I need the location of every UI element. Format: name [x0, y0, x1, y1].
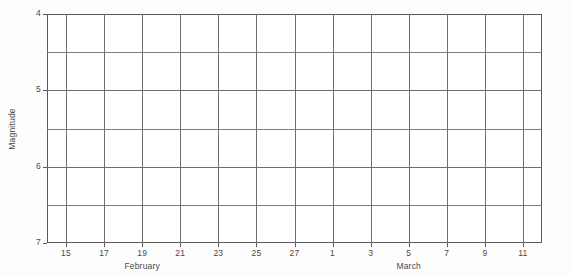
- gridline-v-5: [409, 14, 410, 243]
- x-tick-mark-9: [485, 243, 486, 247]
- x-axis-month-march: March: [369, 261, 449, 271]
- x-tick-label-17: 17: [89, 248, 119, 258]
- x-tick-mark-17: [104, 243, 105, 247]
- x-tick-mark-11: [523, 243, 524, 247]
- x-tick-label-1: 1: [318, 248, 348, 258]
- plot-area: [47, 14, 542, 243]
- y-axis-title: Magnitude: [7, 108, 17, 150]
- x-tick-mark-7: [447, 243, 448, 247]
- gridline-v-3: [371, 14, 372, 243]
- x-tick-label-11: 11: [508, 248, 538, 258]
- gridline-v-9: [485, 14, 486, 243]
- x-tick-label-27: 27: [280, 248, 310, 258]
- y-tick-label-6: 6: [28, 161, 41, 171]
- x-tick-label-25: 25: [241, 248, 271, 258]
- y-tick-label-7: 7: [28, 237, 41, 247]
- x-tick-label-19: 19: [127, 248, 157, 258]
- gridline-v-1: [333, 14, 334, 243]
- x-tick-label-21: 21: [165, 248, 195, 258]
- gridline-v-7: [447, 14, 448, 243]
- x-tick-label-7: 7: [432, 248, 462, 258]
- gridline-v-25: [256, 14, 257, 243]
- gridline-v-15: [66, 14, 67, 243]
- x-tick-label-15: 15: [51, 248, 81, 258]
- x-tick-mark-19: [142, 243, 143, 247]
- x-axis-month-february: February: [102, 261, 182, 271]
- x-tick-label-5: 5: [394, 248, 424, 258]
- x-tick-mark-15: [66, 243, 67, 247]
- x-tick-label-3: 3: [356, 248, 386, 258]
- x-tick-mark-25: [256, 243, 257, 247]
- chart-figure: Magnitude 4 5 6 7 151719212325271357911 …: [0, 0, 571, 276]
- x-tick-mark-23: [218, 243, 219, 247]
- x-tick-mark-27: [295, 243, 296, 247]
- x-tick-mark-3: [371, 243, 372, 247]
- x-tick-label-23: 23: [203, 248, 233, 258]
- x-tick-mark-1: [333, 243, 334, 247]
- y-tick-label-5: 5: [28, 84, 41, 94]
- gridline-v-21: [180, 14, 181, 243]
- gridline-v-11: [523, 14, 524, 243]
- gridline-v-19: [142, 14, 143, 243]
- gridline-v-17: [104, 14, 105, 243]
- gridline-v-23: [218, 14, 219, 243]
- y-tick-label-4: 4: [28, 8, 41, 18]
- y-tick-mark-7: [43, 243, 47, 244]
- x-tick-mark-5: [409, 243, 410, 247]
- x-tick-mark-21: [180, 243, 181, 247]
- gridline-v-27: [295, 14, 296, 243]
- x-tick-label-9: 9: [470, 248, 500, 258]
